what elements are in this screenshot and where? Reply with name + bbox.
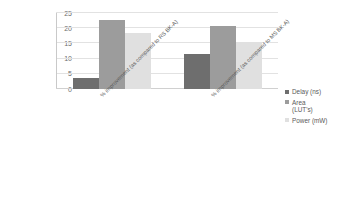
bar-group — [184, 13, 262, 89]
chart-legend: Delay (ns)Area (LUT's)Power (mW) — [285, 88, 355, 127]
legend-item-label: Area (LUT's) — [292, 99, 313, 114]
legend-item-label: Power (mW) — [292, 117, 328, 125]
square-marker-icon — [285, 90, 289, 94]
square-marker-icon — [285, 118, 289, 122]
bar-chart: 0510152025 % improvement (as compared to… — [0, 0, 357, 222]
y-axis-line — [56, 13, 57, 89]
bar — [73, 78, 99, 89]
bar-group — [73, 13, 151, 89]
legend-item-label: Delay (ns) — [292, 88, 321, 96]
legend-item[interactable]: Power (mW) — [285, 117, 355, 125]
bar — [184, 54, 210, 89]
legend-item[interactable]: Delay (ns) — [285, 88, 355, 96]
legend-item[interactable]: Area (LUT's) — [285, 99, 355, 114]
square-marker-icon — [285, 100, 289, 104]
